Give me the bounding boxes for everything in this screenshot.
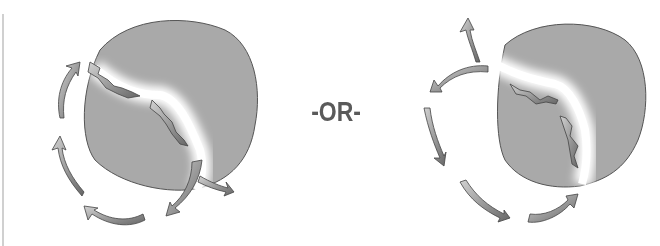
disc-icon [492,24,646,187]
left-diagram [0,0,300,246]
right-diagram [410,0,660,246]
disc-icon [84,20,257,190]
or-separator: -OR- [303,96,369,128]
